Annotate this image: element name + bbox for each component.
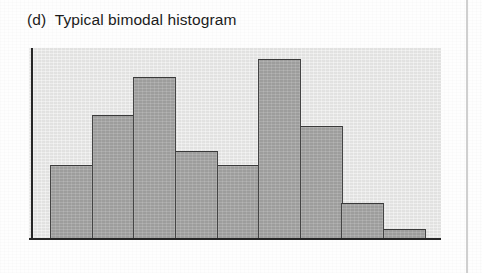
histogram-bar xyxy=(92,115,135,239)
histogram-bar xyxy=(175,151,218,239)
figure-caption: (d) Typical bimodal histogram xyxy=(27,10,236,30)
y-axis-line xyxy=(31,48,33,240)
histogram-bars xyxy=(50,48,426,239)
histogram-plot-area xyxy=(29,48,441,240)
x-axis-line xyxy=(29,238,441,240)
page-column-divider xyxy=(466,0,468,273)
histogram-bar xyxy=(133,77,176,239)
histogram-bar xyxy=(300,126,343,239)
histogram-bar xyxy=(50,165,93,239)
histogram-bar xyxy=(217,165,260,239)
histogram-bar xyxy=(258,59,301,239)
histogram-bar xyxy=(341,203,384,239)
figure-panel: (d) Typical bimodal histogram xyxy=(0,0,482,273)
